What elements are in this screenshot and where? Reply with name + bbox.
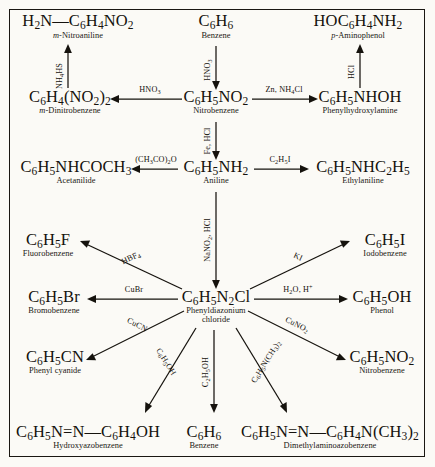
formula-phenyl-cyanide: C6H5CN: [26, 347, 84, 367]
arrow-phenylhydroxylamine-to-aminophenol: HCl: [347, 44, 364, 88]
species-phenylhydroxylamine: C6H5NHOH Phenylhydroxylamine: [319, 87, 402, 115]
species-phenol: C6H5OH Phenol: [353, 287, 412, 315]
reagent-hcl: HCl: [347, 64, 356, 79]
arrow-diazonium-to-phenyl-cyanide: CuCN: [86, 311, 184, 360]
name-nitrobenzene: Nitrobenzene: [193, 106, 239, 115]
formula-diazonium: C6H5N2Cl: [182, 287, 251, 307]
reagent-h2o-hplus: H2O, H+: [283, 283, 313, 294]
formula-p-aminophenol: HOC6H4NH2: [314, 11, 403, 31]
reagent-hbf4: HBF4: [120, 250, 142, 267]
name-aniline: Aniline: [203, 176, 229, 185]
formula-nitrobenzene-b: C6H5NO2: [350, 347, 415, 367]
species-iodobenzene: C6H5I Iodobenzene: [363, 230, 407, 258]
arrow-aniline-to-ethylaniline: C2H5I: [254, 155, 309, 173]
species-dimethylaminoazobenzene: C6H5N=N—C6H4N(CH3)2 Dimethylaminoazobenz…: [241, 422, 419, 450]
species-nitrobenzene-b: C6H5NO2 Nitrobenzene: [350, 347, 415, 375]
formula-bromobenzene: C6H5Br: [28, 287, 80, 307]
arrow-diazonium-to-bromobenzene: CuBr: [87, 285, 178, 303]
formula-dimethylaminoazobenzene: C6H5N=N—C6H4N(CH3)2: [241, 422, 419, 442]
reagent-cubr: CuBr: [125, 285, 143, 294]
name-bromobenzene: Bromobenzene: [28, 306, 80, 315]
name-m-nitroaniline: m-Nitroaniline: [53, 31, 103, 40]
arrow-aniline-to-diazonium: NaNO2, HCl: [203, 192, 220, 289]
formula-ethylaniline: C6H5NHC2H5: [316, 157, 410, 177]
name-fluorobenzene: Fluorobenzene: [23, 249, 74, 258]
species-acetanilide: C6H5NHCOCH3 Acetanilide: [21, 157, 132, 185]
species-benzene-top: C6H6 Benzene: [199, 11, 234, 40]
reaction-scheme-page: H2N—C6H4NO2 m-Nitroaniline C6H6 Benzene …: [0, 0, 435, 467]
species-p-aminophenol: HOC6H4NH2 p-Aminophenol: [314, 11, 403, 40]
name2-diazonium: chloride: [202, 315, 230, 324]
reagent-phenol-coupling: C6H5OH: [154, 346, 178, 377]
name-nitrobenzene-b: Nitrobenzene: [359, 366, 405, 375]
species-ethylaniline: C6H5NHC2H5 Ethylaniline: [316, 157, 410, 185]
species-nitrobenzene: C6H5NO2 Nitrobenzene: [184, 87, 249, 115]
name-acetanilide: Acetanilide: [56, 176, 95, 185]
arrow-diazonium-to-iodobenzene: KI: [250, 241, 350, 289]
reagent-c2h5i: C2H5I: [269, 155, 290, 165]
name-benzene-top: Benzene: [201, 31, 230, 40]
species-m-nitroaniline: H2N—C6H4NO2 m-Nitroaniline: [22, 11, 133, 40]
name-diazonium: Phenyldiazonium: [186, 306, 246, 315]
name-phenol: Phenol: [370, 306, 394, 315]
reagent-acetic-anhydride: (CH3CO)2O: [135, 155, 177, 165]
species-diazonium: C6H5N2Cl Phenyldiazonium chloride: [182, 287, 251, 324]
reagent-fe-hcl: Fe, HCl: [203, 127, 212, 155]
arrow-diazonium-to-nitrobenzene-b: CuNO2: [248, 311, 346, 360]
reagent-cuno2: CuNO2: [284, 315, 311, 335]
reagent-c2h5oh: C2H5OH: [201, 357, 211, 387]
formula-hydroxyazobenzene: C6H5N=N—C6H4OH: [16, 422, 160, 442]
formula-m-dinitrobenzene: C6H4(NO2)2: [29, 87, 111, 107]
species-benzene-bottom: C6H6 Benzene: [187, 422, 222, 450]
arrow-dinitrobenzene-to-nitroaniline: NH4HS: [55, 44, 72, 89]
species-phenyl-cyanide: C6H5CN Phenyl cyanide: [26, 347, 84, 375]
species-hydroxyazobenzene: C6H5N=N—C6H4OH Hydroxyazobenzene: [16, 422, 160, 450]
reagent-zn-nh4cl: Zn, NH4Cl: [265, 85, 303, 95]
formula-aniline: C6H5NH2: [184, 157, 249, 177]
species-aniline: C6H5NH2 Aniline: [184, 157, 249, 185]
arrow-diazonium-to-benzene-bottom: C2H5OH: [201, 330, 218, 413]
reagent-ki: KI: [292, 251, 304, 263]
formula-phenylhydroxylamine: C6H5NHOH: [319, 87, 402, 107]
name-benzene-bottom: Benzene: [189, 441, 218, 450]
name-phenylhydroxylamine: Phenylhydroxylamine: [323, 106, 398, 115]
arrow-nitrobenzene-to-dinitrobenzene: HNO3: [110, 85, 182, 103]
formula-benzene-top: C6H6: [199, 11, 234, 31]
name-m-dinitrobenzene: m-Dinitrobenzene: [39, 106, 101, 115]
arrow-nitrobenzene-to-phenylhydroxylamine: Zn, NH4Cl: [252, 85, 318, 103]
formula-m-nitroaniline: H2N—C6H4NO2: [22, 11, 133, 31]
arrow-diazonium-to-dimethylaminoazobenzene: C6H5N(CH3)2: [236, 328, 287, 413]
formula-benzene-bottom: C6H6: [187, 422, 222, 442]
arrow-diazonium-to-phenol: H2O, H+: [254, 283, 348, 303]
reagent-hno3-horizontal: HNO3: [139, 85, 160, 95]
reagent-nh4hs: NH4HS: [55, 63, 65, 89]
name-p-aminophenol: p-Aminophenol: [330, 31, 385, 40]
species-m-dinitrobenzene: C6H4(NO2)2 m-Dinitrobenzene: [29, 87, 111, 115]
formula-iodobenzene: C6H5I: [365, 230, 405, 250]
name-phenyl-cyanide: Phenyl cyanide: [29, 366, 81, 375]
arrow-benzene-to-nitrobenzene: HNO3: [203, 46, 220, 90]
name-iodobenzene: Iodobenzene: [363, 249, 407, 258]
species-bromobenzene: C6H5Br Bromobenzene: [28, 287, 80, 315]
arrow-diazonium-to-hydroxyazobenzene: C6H5OH: [145, 328, 196, 413]
name-dimethylaminoazobenzene: Dimethylaminoazobenzene: [284, 441, 377, 450]
formula-nitrobenzene: C6H5NO2: [184, 87, 249, 107]
formula-phenol: C6H5OH: [353, 287, 412, 307]
species-fluorobenzene: C6H5F Fluorobenzene: [23, 230, 74, 258]
reaction-scheme-svg: H2N—C6H4NO2 m-Nitroaniline C6H6 Benzene …: [0, 0, 435, 467]
arrow-aniline-to-acetanilide: (CH3CO)2O: [131, 155, 178, 173]
name-hydroxyazobenzene: Hydroxyazobenzene: [53, 441, 123, 450]
reagent-nano2-hcl: NaNO2, HCl: [203, 218, 213, 262]
reagent-hno3-vertical: HNO3: [203, 59, 213, 80]
reagent-cucn: CuCN: [125, 316, 148, 334]
formula-fluorobenzene: C6H5F: [26, 230, 70, 250]
name-ethylaniline: Ethylaniline: [342, 176, 384, 185]
arrow-nitrobenzene-to-aniline: Fe, HCl: [203, 122, 220, 160]
formula-acetanilide: C6H5NHCOCH3: [21, 157, 132, 177]
arrow-diazonium-to-fluorobenzene: HBF4: [80, 241, 182, 289]
